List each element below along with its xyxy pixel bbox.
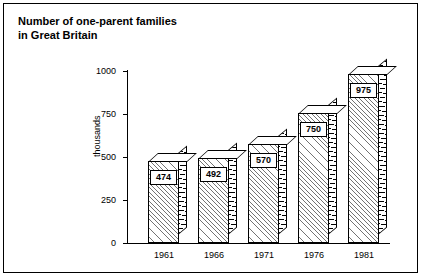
y-tick-750: 750 <box>123 114 127 115</box>
x-tick-label-1981: 1981 <box>354 250 374 260</box>
x-tick-label-1976: 1976 <box>304 250 324 260</box>
y-axis-line <box>127 70 128 244</box>
x-tick-label-1961: 1961 <box>154 250 174 260</box>
bar-1981-hatch <box>349 75 378 242</box>
y-axis-label: thousands <box>92 115 102 157</box>
y-tick-label-250: 250 <box>101 195 116 205</box>
y-tick-1000: 1000 <box>123 71 127 72</box>
chart-frame: Number of one-parent families in Great B… <box>3 3 418 273</box>
bar-1976[interactable]: 750 <box>298 105 336 243</box>
bar-1971-value: 570 <box>250 153 277 168</box>
bar-1981[interactable]: 975 <box>348 66 386 243</box>
bar-1971[interactable]: 570 <box>248 136 286 243</box>
bar-1966[interactable]: 492 <box>198 150 236 243</box>
x-tick-label-1971: 1971 <box>254 250 274 260</box>
chart-page: Number of one-parent families in Great B… <box>0 0 425 280</box>
x-tick-label-1966: 1966 <box>204 250 224 260</box>
y-tick-label-0: 0 <box>111 238 116 248</box>
y-tick-label-750: 750 <box>101 109 116 119</box>
plot-area: 0 250 500 750 1000 474 <box>127 70 390 244</box>
x-axis-line <box>127 243 390 244</box>
bar-1981-side <box>378 58 387 235</box>
bar-1981-value: 975 <box>350 83 377 98</box>
bar-1976-value: 750 <box>300 122 327 137</box>
y-tick-500: 500 <box>123 157 127 158</box>
y-tick-label-1000: 1000 <box>96 66 116 76</box>
bar-1976-side <box>328 97 337 235</box>
bar-1961[interactable]: 474 <box>148 153 186 243</box>
chart-title: Number of one-parent families in Great B… <box>18 14 177 42</box>
y-tick-250: 250 <box>123 200 127 201</box>
bar-1961-value: 474 <box>150 170 177 185</box>
y-tick-0: 0 <box>123 243 127 244</box>
y-tick-label-500: 500 <box>101 152 116 162</box>
bar-1966-value: 492 <box>200 167 227 182</box>
